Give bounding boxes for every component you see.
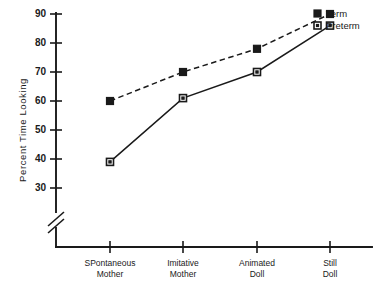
- y-tick-label: 70: [35, 66, 47, 77]
- plot-area: [107, 11, 334, 166]
- x-tick-label-line2: Doll: [323, 269, 338, 279]
- x-axis-category-labels: SPontaneous Mother Imitative Mother Anim…: [84, 258, 337, 279]
- y-axis-ticks: 90 80 70 60 50 40 30: [35, 8, 62, 193]
- chart-figure: 90 80 70 60 50 40 30 Percent Time Lookin…: [0, 0, 380, 281]
- y-axis-title: Percent Time Looking: [17, 78, 28, 182]
- x-tick-label: Animated: [239, 258, 275, 268]
- data-point-term-1: [180, 69, 187, 76]
- data-point-center-preterm-0: [109, 161, 111, 163]
- data-point-term-2: [254, 45, 261, 52]
- y-tick-label: 90: [35, 8, 47, 19]
- x-tick-label-line2: Mother: [97, 269, 124, 279]
- series-line-preterm: [110, 26, 330, 162]
- line-chart-svg: 90 80 70 60 50 40 30 Percent Time Lookin…: [0, 0, 380, 281]
- data-point-term-0: [107, 98, 114, 105]
- legend-label-term: Term: [326, 8, 347, 19]
- legend-marker-term: [314, 10, 321, 17]
- x-tick-label: Imitative: [167, 258, 199, 268]
- legend-marker-preterm-center: [317, 25, 319, 27]
- x-tick-label-line2: Doll: [250, 269, 265, 279]
- x-tick-label: Still: [323, 258, 337, 268]
- legend-label-preterm: Preterm: [326, 20, 360, 31]
- data-point-center-preterm-2: [256, 71, 258, 73]
- x-tick-label-line2: Mother: [170, 269, 197, 279]
- y-tick-label: 80: [35, 37, 47, 48]
- y-tick-label: 60: [35, 95, 47, 106]
- y-tick-label: 30: [35, 182, 47, 193]
- series-line-term: [110, 14, 330, 101]
- y-tick-label: 50: [35, 124, 47, 135]
- x-tick-label: SPontaneous: [84, 258, 135, 268]
- y-tick-label: 40: [35, 153, 47, 164]
- data-point-center-preterm-1: [182, 97, 184, 99]
